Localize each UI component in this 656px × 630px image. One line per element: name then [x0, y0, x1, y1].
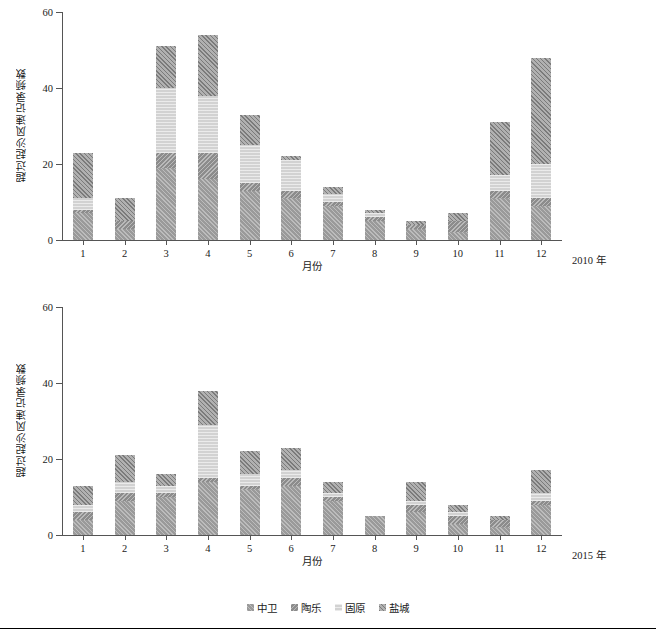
bar-stack	[365, 516, 385, 535]
bar-segment	[448, 512, 468, 516]
bar-segment	[198, 35, 218, 96]
bar-segment	[281, 470, 301, 478]
plot-area-2015: 0204060123456789101112	[62, 307, 562, 535]
bar-segment	[406, 501, 426, 505]
y-axis-tick-label: 60	[43, 302, 54, 313]
y-axis-tick	[56, 459, 62, 460]
chart-legend: 中卫陶乐固原盐城	[0, 600, 656, 615]
year-label-2010: 2010 年	[572, 252, 606, 267]
x-axis-tick	[291, 535, 292, 540]
bar-segment	[323, 206, 343, 240]
x-axis-tick	[291, 240, 292, 245]
bar-segment	[448, 213, 468, 221]
bar-segment	[115, 221, 135, 229]
bar-segment	[365, 221, 385, 240]
x-axis-tick	[333, 535, 334, 540]
bar-segment	[281, 198, 301, 240]
x-axis-tick	[458, 535, 459, 540]
bar-segment	[490, 175, 510, 190]
bar-segment	[406, 225, 426, 229]
bar-segment	[323, 202, 343, 206]
bar-segment	[323, 493, 343, 497]
bar-segment	[156, 497, 176, 535]
x-axis-tick	[250, 535, 251, 540]
bar-segment	[115, 482, 135, 493]
bar-segment	[490, 122, 510, 175]
y-axis-tick-label: 0	[48, 530, 53, 541]
x-axis-tick	[416, 240, 417, 245]
bar-stack	[490, 122, 510, 240]
bar-segment	[531, 206, 551, 240]
bar-segment	[531, 470, 551, 493]
bar-segment	[281, 156, 301, 160]
legend-label: 中卫	[257, 600, 277, 615]
bar-segment	[531, 493, 551, 501]
legend-item[interactable]: 陶乐	[291, 600, 321, 615]
legend-item[interactable]: 中卫	[247, 600, 277, 615]
bar-segment	[490, 191, 510, 199]
y-axis-tick-label: 20	[43, 454, 54, 465]
legend-label: 陶乐	[301, 600, 321, 615]
bar-stack	[448, 213, 468, 240]
bar-segment	[73, 198, 93, 209]
bar-segment	[198, 425, 218, 478]
x-axis-line	[62, 535, 562, 536]
y-axis-title-2015: 超过起沙风速记录频数	[14, 335, 30, 505]
bar-stack	[323, 187, 343, 240]
bar-segment	[531, 501, 551, 505]
bar-segment	[240, 115, 260, 145]
y-axis-tick	[56, 307, 62, 308]
bar-stack	[73, 153, 93, 240]
bar-segment	[73, 153, 93, 199]
bar-stack	[323, 482, 343, 535]
legend-swatch-icon	[247, 604, 254, 611]
bar-segment	[323, 187, 343, 195]
bar-segment	[115, 501, 135, 535]
chart-panel-2010: 超过起沙风速记录频数 0204060123456789101112 月份 201…	[0, 0, 656, 290]
bar-segment	[73, 213, 93, 240]
bar-segment	[323, 497, 343, 501]
y-axis-tick	[56, 12, 62, 13]
x-axis-tick	[500, 240, 501, 245]
bar-segment	[156, 153, 176, 168]
x-axis-tick	[375, 535, 376, 540]
bar-segment	[365, 210, 385, 214]
bar-segment	[531, 164, 551, 198]
x-axis-tick	[333, 240, 334, 245]
bar-segment	[240, 489, 260, 535]
x-axis-title-2010: 月份	[62, 258, 562, 273]
bar-segment	[448, 524, 468, 535]
bar-stack	[198, 391, 218, 535]
bar-segment	[490, 527, 510, 535]
x-axis-tick	[83, 240, 84, 245]
bar-stack	[365, 210, 385, 240]
bar-segment	[73, 486, 93, 505]
bar-segment	[240, 486, 260, 490]
y-axis-line	[62, 307, 63, 535]
bar-segment	[198, 179, 218, 240]
bar-segment	[448, 516, 468, 524]
bar-segment	[240, 183, 260, 191]
legend-item[interactable]: 固原	[335, 600, 365, 615]
y-axis-line	[62, 12, 63, 240]
y-axis-title-2010: 超过起沙风速记录频数	[14, 40, 30, 210]
bar-segment	[406, 229, 426, 240]
bar-segment	[73, 520, 93, 535]
x-axis-tick	[375, 240, 376, 245]
x-axis-tick	[541, 535, 542, 540]
bar-segment	[115, 455, 135, 482]
bar-segment	[156, 88, 176, 153]
x-axis-tick	[458, 240, 459, 245]
bar-stack	[198, 35, 218, 240]
bar-stack	[490, 516, 510, 535]
bar-stack	[531, 470, 551, 535]
bar-segment	[198, 153, 218, 180]
bar-stack	[115, 198, 135, 240]
y-axis-tick-label: 40	[43, 83, 54, 94]
bar-segment	[240, 145, 260, 183]
y-axis-tick	[56, 240, 62, 241]
bar-segment	[531, 198, 551, 206]
legend-item[interactable]: 盐城	[379, 600, 409, 615]
bar-segment	[115, 198, 135, 221]
bar-stack	[448, 505, 468, 535]
